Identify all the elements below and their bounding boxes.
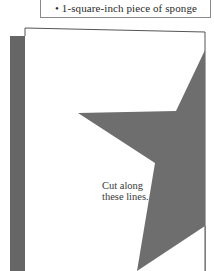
paper-shadow-strip — [10, 36, 25, 271]
cut-instruction-label: Cut along these lines. — [102, 180, 149, 202]
cut-label-line2: these lines. — [102, 191, 149, 202]
cut-label-line1: Cut along — [102, 180, 149, 191]
star-template-illustration — [0, 0, 214, 271]
